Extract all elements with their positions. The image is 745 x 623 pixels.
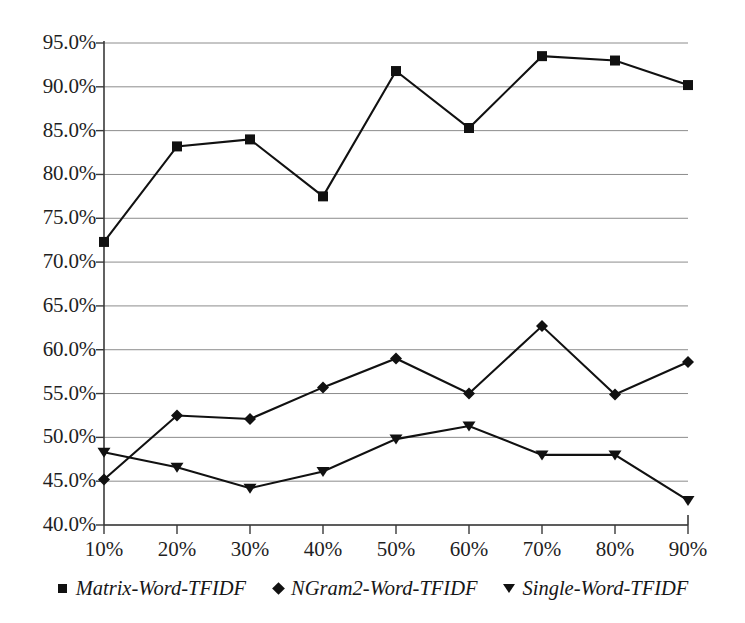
y-axis-tick-label-text: 75.0%: [8, 207, 96, 228]
data-series: [98, 421, 695, 505]
data-point-marker: [464, 123, 474, 133]
data-point-marker: [683, 80, 693, 90]
chart-legend: Matrix-Word-TFIDFNGram2-Word-TFIDFSingle…: [0, 572, 745, 604]
y-axis-tick-label-text: 40.0%: [8, 514, 96, 535]
data-point-marker: [244, 413, 256, 425]
x-axis-tick-label: 60%: [429, 539, 509, 560]
legend-entry[interactable]: Single-Word-TFIDF: [503, 577, 688, 599]
gridlines: [104, 43, 688, 525]
y-axis-tick-label-text: 70.0%: [8, 251, 96, 272]
y-axis-tick-label-text: 90.0%: [8, 76, 96, 97]
data-point-marker: [610, 56, 620, 66]
y-axis-tick-label-text: 80.0%: [8, 163, 96, 184]
x-axis-tick-label: 80%: [575, 539, 655, 560]
x-axis-tick-label: 90%: [648, 539, 728, 560]
data-series: [98, 320, 694, 485]
axis-lines: [104, 41, 688, 525]
legend-square-icon: [57, 582, 69, 594]
x-axis-tick-label: 30%: [210, 539, 290, 560]
x-axis-tick-label: 70%: [502, 539, 582, 560]
y-axis-tick-label-text: 65.0%: [8, 295, 96, 316]
data-point-marker: [245, 134, 255, 144]
data-point-marker: [390, 435, 403, 445]
y-axis-tick-label-text: 85.0%: [8, 120, 96, 141]
series-line: [104, 326, 688, 479]
data-point-marker: [682, 356, 694, 368]
y-axis-tick-label-text: 45.0%: [8, 470, 96, 491]
legend-triangle-down-icon: [503, 582, 515, 594]
x-axis-tick-label: 10%: [64, 539, 144, 560]
legend-label: Matrix-Word-TFIDF: [76, 577, 246, 599]
x-axis-tick-label: 50%: [356, 539, 436, 560]
legend-entry[interactable]: NGram2-Word-TFIDF: [272, 577, 477, 599]
line-chart: 95.0%90.0%85.0%80.0%75.0%70.0%65.0%60.0%…: [0, 0, 745, 623]
y-axis-tick-label-text: 95.0%: [8, 32, 96, 53]
plot-area: [0, 0, 745, 623]
x-axis-tick-label: 20%: [137, 539, 217, 560]
x-axis-tick-label: 40%: [283, 539, 363, 560]
data-point-marker: [244, 484, 257, 494]
data-point-marker: [682, 496, 695, 506]
legend-diamond-icon: [272, 582, 284, 594]
y-axis-tick-label-text: 55.0%: [8, 383, 96, 404]
series-line: [104, 56, 688, 242]
y-axis-tick-label-text: 60.0%: [8, 339, 96, 360]
legend-entry[interactable]: Matrix-Word-TFIDF: [57, 577, 246, 599]
data-point-marker: [172, 141, 182, 151]
data-series: [99, 51, 693, 247]
data-point-marker: [391, 66, 401, 76]
x-axis-ticks: [104, 525, 688, 534]
data-point-marker: [537, 51, 547, 61]
legend-label: Single-Word-TFIDF: [522, 577, 688, 599]
data-point-marker: [390, 352, 402, 364]
data-point-marker: [99, 237, 109, 247]
data-point-marker: [317, 381, 329, 393]
legend-label: NGram2-Word-TFIDF: [291, 577, 477, 599]
y-axis-tick-label-text: 50.0%: [8, 426, 96, 447]
data-point-marker: [318, 191, 328, 201]
